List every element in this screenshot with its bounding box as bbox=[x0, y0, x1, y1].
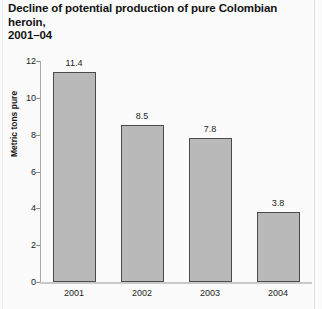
bar bbox=[189, 138, 232, 282]
bar-value-label: 11.4 bbox=[66, 58, 83, 68]
y-axis-tick-mark bbox=[36, 245, 40, 246]
y-axis-title: Metric tons pure bbox=[9, 143, 19, 157]
bar bbox=[53, 72, 96, 282]
bar-value-label: 7.8 bbox=[204, 124, 217, 134]
y-axis-tick-mark bbox=[36, 282, 40, 283]
y-axis-tick-mark bbox=[36, 172, 40, 173]
y-axis-tick-label: 4 bbox=[20, 203, 36, 213]
x-axis-line bbox=[40, 282, 312, 284]
bar bbox=[121, 125, 164, 282]
y-axis-tick-label: 0 bbox=[20, 277, 36, 287]
y-axis-tick-mark bbox=[36, 61, 40, 62]
x-axis-tick-label: 2001 bbox=[64, 288, 84, 298]
y-axis-tick-label: 8 bbox=[20, 130, 36, 140]
bar-value-label: 3.8 bbox=[272, 198, 285, 208]
bar-value-label: 8.5 bbox=[136, 111, 149, 121]
bar bbox=[257, 212, 300, 282]
bar-chart-plot-area: Metric tons pure 024681012 2001200220032… bbox=[0, 0, 322, 309]
y-axis-tick-label: 12 bbox=[20, 56, 36, 66]
y-axis-line bbox=[40, 61, 41, 283]
y-axis-tick-mark bbox=[36, 98, 40, 99]
y-axis-tick-mark bbox=[36, 208, 40, 209]
y-axis-tick-label: 10 bbox=[20, 93, 36, 103]
x-axis-tick-label: 2003 bbox=[200, 288, 220, 298]
x-axis-tick-label: 2002 bbox=[132, 288, 152, 298]
y-axis-tick-label: 2 bbox=[20, 240, 36, 250]
y-axis-tick-label: 6 bbox=[20, 167, 36, 177]
y-axis-tick-mark bbox=[36, 135, 40, 136]
x-axis-tick-label: 2004 bbox=[268, 288, 288, 298]
